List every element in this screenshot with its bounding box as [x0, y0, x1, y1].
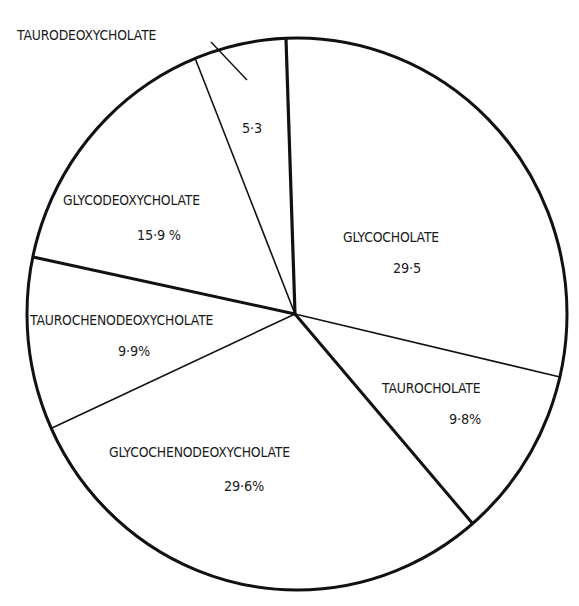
value-glycodeoxycholate: 15·9 % [137, 227, 181, 243]
boundary-glycocholate-taurocholate [295, 314, 560, 377]
value-taurocholate: 9·8% [449, 411, 481, 427]
pie-chart [0, 0, 579, 606]
label-taurocholate: TAUROCHOLATE [382, 380, 480, 396]
value-taurochenodeoxycholate: 9·9% [118, 343, 150, 359]
boundary-taurocholate-glycocheno [295, 314, 473, 524]
boundary-glycodeoxy-taurodeoxy [195, 58, 295, 314]
boundary-glycocheno-taurocheno [52, 314, 295, 428]
value-glycochenodeoxycholate: 29·6% [224, 478, 264, 494]
value-taurodeoxycholate: 5·3 [242, 120, 262, 136]
boundary-taurocheno-glycodeoxy [33, 257, 295, 314]
label-glycochenodeoxycholate: GLYCOCHENODEOXYCHOLATE [109, 444, 290, 460]
boundary-taurodeoxy-glycocholate [286, 39, 295, 314]
value-glycocholate: 29·5 [393, 260, 421, 276]
label-glycodeoxycholate: GLYCODEOXYCHOLATE [63, 192, 200, 208]
label-taurodeoxycholate: TAURODEOXYCHOLATE [17, 27, 156, 43]
label-glycocholate: GLYCOCHOLATE [343, 229, 439, 245]
label-taurochenodeoxycholate: TAUROCHENODEOXYCHOLATE [30, 312, 213, 328]
